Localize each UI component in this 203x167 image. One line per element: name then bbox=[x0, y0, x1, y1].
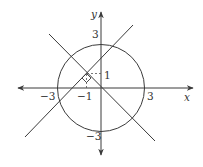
tick-label-y-neg3: −3 bbox=[86, 130, 101, 142]
x-axis-label: x bbox=[184, 91, 190, 103]
coordinate-diagram: y x 3 −3 1 3 −3 −1 bbox=[0, 0, 203, 167]
tick-label-x-3: 3 bbox=[147, 90, 154, 102]
y-axis-label: y bbox=[90, 8, 98, 20]
line-y-equals-x-plus-2 bbox=[25, 25, 133, 137]
tick-label-x-neg3: −3 bbox=[40, 90, 55, 102]
tick-label-y-1: 1 bbox=[104, 69, 111, 81]
diagram-canvas: y x 3 −3 1 3 −3 −1 bbox=[0, 0, 203, 167]
tick-label-y-3: 3 bbox=[92, 28, 99, 40]
tick-label-x-neg1: −1 bbox=[77, 90, 92, 102]
